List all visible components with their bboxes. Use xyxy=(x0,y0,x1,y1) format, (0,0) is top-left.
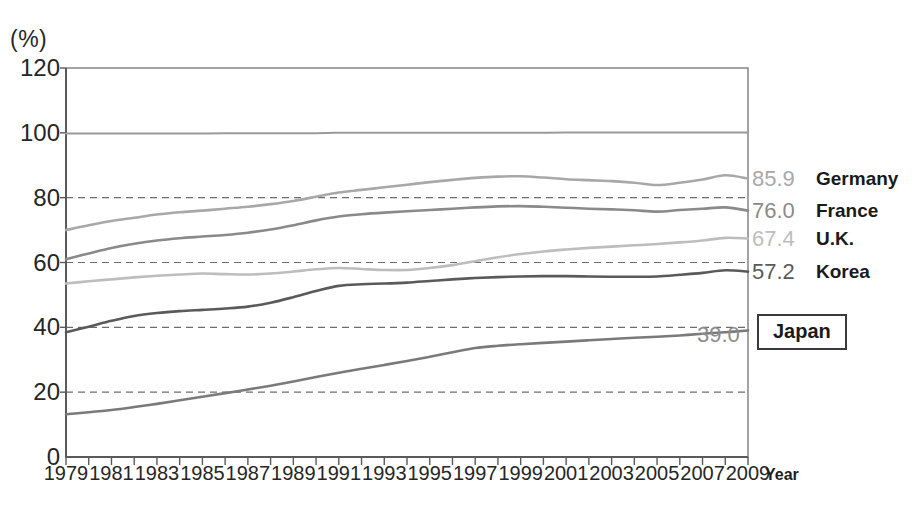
legend-value: 57.2 xyxy=(752,261,810,283)
x-tick-label-1983: 1983 xyxy=(135,462,180,484)
legend-value: 85.9 xyxy=(752,168,810,190)
x-tick-label-2007: 2007 xyxy=(680,462,725,484)
legend-label: Korea xyxy=(816,262,870,281)
legend-row-france: 76.0France xyxy=(752,198,878,224)
x-tick-label-1987: 1987 xyxy=(226,462,271,484)
x-tick-label-1985: 1985 xyxy=(180,462,225,484)
x-tick-label-2001: 2001 xyxy=(544,462,589,484)
x-tick-label-2003: 2003 xyxy=(589,462,634,484)
legend-row-korea: 57.2Korea xyxy=(752,259,870,285)
japan-end-value: 39.0 xyxy=(697,322,740,348)
chart-legend: 85.9Germany76.0France67.4U.K.57.2Korea xyxy=(752,0,924,519)
x-tick-label-1981: 1981 xyxy=(89,462,134,484)
series-line-japan xyxy=(66,331,748,415)
legend-label: France xyxy=(816,201,878,220)
series-line-germany xyxy=(66,175,748,230)
x-tick-label-2005: 2005 xyxy=(635,462,680,484)
x-tick-label-1991: 1991 xyxy=(317,462,362,484)
x-tick-label-1995: 1995 xyxy=(407,462,452,484)
legend-row-germany: 85.9Germany xyxy=(752,166,898,192)
japan-legend-label: Japan xyxy=(773,320,831,342)
x-tick-label-1989: 1989 xyxy=(271,462,316,484)
legend-value: 67.4 xyxy=(752,228,810,250)
legend-label: U.K. xyxy=(816,229,854,248)
x-tick-label-1997: 1997 xyxy=(453,462,498,484)
gridlines xyxy=(60,68,748,392)
series-line-korea xyxy=(66,270,748,332)
legend-row-u-k-: 67.4U.K. xyxy=(752,226,854,252)
x-tick-label-1993: 1993 xyxy=(362,462,407,484)
x-tick-label-1979: 1979 xyxy=(44,462,89,484)
data-series xyxy=(66,132,748,414)
x-tick-label-1999: 1999 xyxy=(498,462,543,484)
series-line-reference-100 xyxy=(66,132,748,133)
japan-legend-box: Japan xyxy=(757,314,847,350)
legend-label: Germany xyxy=(816,169,898,188)
legend-value: 76.0 xyxy=(752,200,810,222)
line-chart: (%) 120100806040200 19791981198319851987… xyxy=(0,0,924,519)
